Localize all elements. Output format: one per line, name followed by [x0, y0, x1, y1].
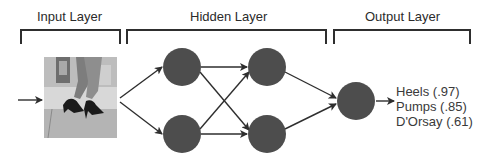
prediction-heels: Heels (.97)	[396, 84, 473, 99]
prediction-pumps: Pumps (.85)	[396, 99, 473, 114]
hidden-node-1-1	[163, 48, 201, 86]
input-layer-bracket	[21, 30, 120, 44]
input-image-heels	[44, 57, 117, 138]
hidden-layer-bracket	[127, 30, 326, 44]
neural-network-diagram: Input Layer Hidden Layer Output Layer	[0, 0, 491, 162]
output-node	[337, 82, 375, 120]
prediction-list: Heels (.97) Pumps (.85) D'Orsay (.61)	[396, 84, 473, 129]
hidden-node-2-2	[248, 115, 286, 153]
prediction-dorsay: D'Orsay (.61)	[396, 114, 473, 129]
hidden-node-2-1	[248, 48, 286, 86]
output-layer-bracket	[334, 30, 470, 44]
hidden-node-1-2	[163, 115, 201, 153]
